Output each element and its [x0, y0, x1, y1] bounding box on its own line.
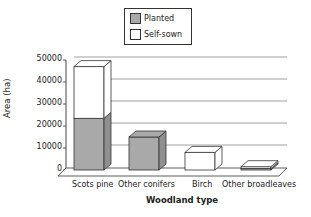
y-tick-label: 10000 — [22, 142, 62, 151]
legend-label: Self-sown — [144, 30, 182, 39]
y-tick-label: 50000 — [22, 54, 62, 63]
x-axis-label: Woodland type — [146, 195, 218, 205]
legend-label: Planted — [144, 14, 174, 23]
legend-item-planted: Planted — [130, 13, 174, 24]
planted-swatch-icon — [130, 13, 141, 24]
y-tick-label: 40000 — [22, 76, 62, 85]
legend: Planted Self-sown — [124, 8, 192, 45]
legend-item-self-sown: Self-sown — [130, 29, 182, 40]
x-tick-label: Other broadleaves — [222, 180, 296, 189]
y-tick-label: 20000 — [22, 120, 62, 129]
bar-segment — [129, 137, 159, 170]
bar-segment — [74, 67, 104, 119]
y-tick-label: 0 — [22, 164, 62, 173]
self-sown-swatch-icon — [130, 29, 141, 40]
bar-segment — [74, 118, 104, 170]
y-tick-label: 30000 — [22, 98, 62, 107]
y-axis-label: Area (ha) — [2, 79, 12, 119]
x-tick-label: Scots pine — [72, 180, 114, 189]
x-tick-label: Birch — [192, 180, 212, 189]
bar-segment — [185, 152, 215, 170]
x-tick-label: Other conifers — [118, 180, 175, 189]
